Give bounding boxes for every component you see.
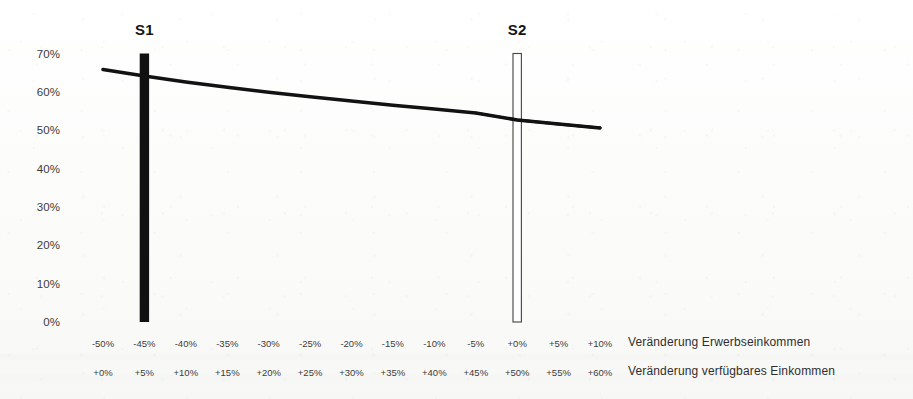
x-tick-label: -10% bbox=[423, 338, 445, 349]
x-axis-secondary-title: Veränderung verfügbares Einkommen bbox=[628, 365, 835, 378]
x-tick-label-secondary: +55% bbox=[546, 367, 571, 378]
x-axis-primary-title: Veränderung Erwerbseinkommen bbox=[628, 336, 810, 349]
x-tick-label: -30% bbox=[258, 338, 280, 349]
x-tick-label-secondary: +0% bbox=[93, 367, 112, 378]
x-tick-label-secondary: +15% bbox=[215, 367, 240, 378]
x-tick-label: -45% bbox=[133, 338, 155, 349]
x-tick-label-secondary: +20% bbox=[256, 367, 281, 378]
x-tick-label-secondary: +5% bbox=[135, 367, 154, 378]
x-tick-label: +10% bbox=[588, 338, 613, 349]
x-tick-label-secondary: +60% bbox=[588, 367, 613, 378]
x-tick-label: +0% bbox=[508, 338, 527, 349]
x-tick-label-secondary: +45% bbox=[464, 367, 489, 378]
series-label-s1: S1 bbox=[135, 21, 154, 38]
data-series-line bbox=[103, 70, 600, 128]
x-tick-label: -50% bbox=[92, 338, 114, 349]
x-tick-label-secondary: +30% bbox=[339, 367, 364, 378]
series-marker-bar-s1 bbox=[140, 54, 149, 323]
x-tick-label-secondary: +40% bbox=[422, 367, 447, 378]
x-tick-label: -35% bbox=[216, 338, 238, 349]
line-chart: 70% 60% 50% 40% 30% 20% 10% 0% S1 S2 -50… bbox=[0, 0, 913, 399]
x-tick-label-secondary: +50% bbox=[505, 367, 530, 378]
x-tick-label-secondary: +35% bbox=[381, 367, 406, 378]
x-tick-label: -20% bbox=[340, 338, 362, 349]
series-marker-bar-s2 bbox=[513, 54, 521, 323]
x-tick-label: -25% bbox=[299, 338, 321, 349]
x-tick-label-secondary: +10% bbox=[174, 367, 199, 378]
x-tick-label: -40% bbox=[175, 338, 197, 349]
series-label-s2: S2 bbox=[508, 21, 527, 38]
x-tick-label: -5% bbox=[467, 338, 484, 349]
x-tick-label: -15% bbox=[382, 338, 404, 349]
x-tick-label: +5% bbox=[549, 338, 568, 349]
x-tick-label-secondary: +25% bbox=[298, 367, 323, 378]
